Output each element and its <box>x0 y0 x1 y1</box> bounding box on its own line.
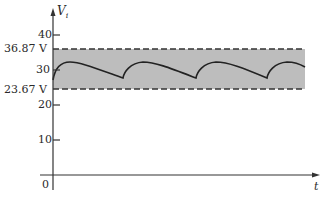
y-axis-label: Vi <box>57 6 68 21</box>
x-axis-label: t <box>314 181 318 192</box>
y-tick-label-10: 10 <box>38 134 52 145</box>
band-upper-label: 36.87 V <box>4 43 47 54</box>
y-axis-arrow-icon <box>51 8 56 16</box>
y-tick-label-20: 20 <box>38 99 52 110</box>
x-axis-arrow-icon <box>312 173 320 178</box>
y-tick-label-30: 30 <box>36 64 50 75</box>
band-lower-label: 23.67 V <box>4 84 47 95</box>
ripple-band <box>53 49 305 89</box>
y-axis-subscript: i <box>66 11 69 20</box>
origin-label: 0 <box>42 179 49 190</box>
y-tick-label-40: 40 <box>38 29 52 40</box>
